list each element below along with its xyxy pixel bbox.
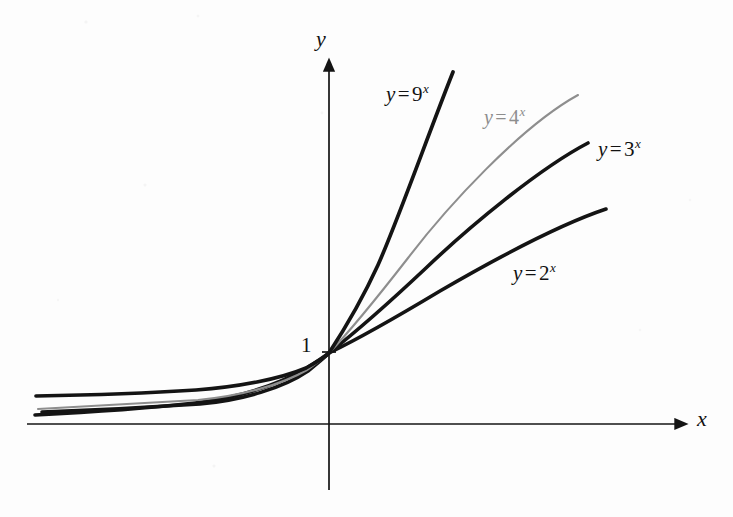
y-axis-label: y	[316, 28, 326, 50]
y-axis-tick-label-one: 1	[301, 335, 312, 356]
axes-group	[27, 70, 676, 490]
curve-label-9x-lhs: y	[386, 82, 396, 106]
curve-label-9x-base: 9	[412, 82, 423, 106]
curve-9x	[36, 72, 453, 396]
x-axis-label: x	[697, 408, 707, 430]
curve-3x	[42, 143, 588, 412]
curve-label-2x-exponent: x	[550, 260, 556, 275]
curve-label-3x-lhs: y	[598, 137, 608, 161]
curve-label-9x: y=9x	[386, 84, 429, 105]
curve-label-9x-operator: =	[396, 82, 412, 106]
curve-label-4x-operator: =	[493, 106, 509, 128]
curve-label-4x-exponent: x	[519, 104, 525, 119]
curve-label-4x: y=4x	[484, 107, 525, 127]
curve-label-9x-exponent: x	[423, 81, 429, 96]
curve-label-3x-operator: =	[608, 137, 624, 161]
curve-label-4x-lhs: y	[484, 106, 493, 128]
curve-label-3x-exponent: x	[635, 136, 641, 151]
curve-4x	[38, 95, 578, 409]
scan-artifacts	[57, 15, 692, 468]
plot-canvas	[0, 0, 733, 517]
curve-label-4x-base: 4	[509, 106, 519, 128]
curve-label-2x-operator: =	[523, 261, 539, 285]
curve-label-2x-base: 2	[539, 261, 550, 285]
exponential-functions-figure: y x 1 y=9x y=4x y=3x y=2x	[0, 0, 733, 517]
curve-label-3x-base: 3	[624, 137, 635, 161]
curve-label-3x: y=3x	[598, 139, 641, 160]
curve-2x	[35, 209, 606, 415]
curve-label-2x: y=2x	[513, 263, 556, 284]
curve-label-2x-lhs: y	[513, 261, 523, 285]
